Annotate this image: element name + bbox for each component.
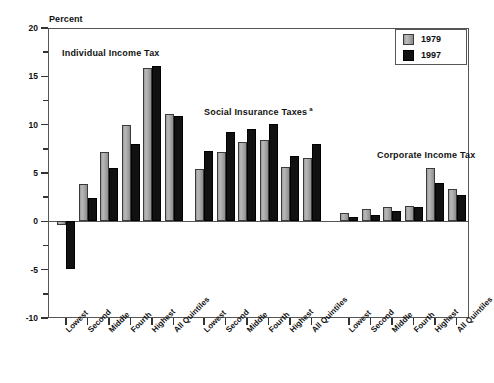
legend-item-1997: 1997 <box>403 50 441 61</box>
bar-1997-highest <box>435 183 444 222</box>
bar-1997-all-quintiles <box>457 195 466 221</box>
bar-1997-lowest <box>204 151 213 222</box>
bar-1979-middle <box>383 207 392 222</box>
bar-1979-all-quintiles <box>303 158 312 222</box>
y-axis-title: Percent <box>49 14 83 24</box>
x-tick <box>311 318 313 325</box>
y-tick-label: 20 <box>12 23 38 33</box>
bar-1997-fourth <box>131 144 140 221</box>
y-tick-label: -5 <box>12 265 38 275</box>
x-tick <box>268 318 270 325</box>
bar-1979-all-quintiles <box>448 189 457 221</box>
bar-1979-highest <box>281 167 290 221</box>
legend-label-1979: 1979 <box>421 35 441 44</box>
bar-1997-middle <box>392 211 401 222</box>
bar-1979-lowest <box>57 221 66 225</box>
y-tick-minor <box>43 148 48 150</box>
bar-1997-lowest <box>349 217 358 222</box>
bar-1979-second <box>217 152 226 222</box>
x-tick <box>87 318 89 325</box>
panel-title-footnote: a <box>307 106 312 112</box>
bar-1979-lowest <box>195 169 204 221</box>
legend-label-1997: 1997 <box>421 51 441 60</box>
x-tick <box>370 318 372 325</box>
legend-item-1979: 1979 <box>403 34 441 45</box>
bar-1997-middle <box>247 129 256 222</box>
bar-1979-fourth <box>122 125 131 222</box>
legend-swatch-1997 <box>403 50 414 61</box>
y-tick-minor <box>43 293 48 295</box>
bar-1997-middle <box>109 168 118 221</box>
y-tick-minor <box>43 51 48 53</box>
bar-1997-all-quintiles <box>174 116 183 221</box>
bar-1979-second <box>79 184 88 222</box>
x-tick <box>456 318 458 325</box>
legend: 1979 1997 <box>395 29 467 65</box>
bar-1979-middle <box>238 142 247 221</box>
x-tick <box>225 318 227 325</box>
y-tick-minor <box>43 196 48 198</box>
bar-1979-second <box>362 209 371 222</box>
x-tick <box>413 318 415 325</box>
y-tick-major <box>41 76 48 78</box>
y-tick-label: 5 <box>12 168 38 178</box>
y-tick-minor <box>43 245 48 247</box>
y-tick-major <box>41 269 48 271</box>
y-tick-label: 0 <box>12 216 38 226</box>
bar-1979-fourth <box>260 140 269 221</box>
bar-1997-all-quintiles <box>312 144 321 221</box>
y-tick-major <box>41 172 48 174</box>
y-tick-label: -10 <box>12 313 38 323</box>
bar-1979-all-quintiles <box>165 114 174 221</box>
bar-1997-fourth <box>269 124 278 222</box>
y-tick-major <box>41 27 48 29</box>
bar-1997-lowest <box>66 221 75 268</box>
y-tick-label: 10 <box>12 120 38 130</box>
panel-title: Social Insurance Taxes a <box>204 106 313 117</box>
y-tick-major <box>41 221 48 223</box>
bar-1979-highest <box>143 68 152 222</box>
y-tick-major <box>41 124 48 126</box>
y-tick-label: 15 <box>12 71 38 81</box>
panel-title: Corporate Income Tax <box>377 150 475 160</box>
x-tick <box>130 318 132 325</box>
bar-1979-lowest <box>340 213 349 222</box>
bar-1979-fourth <box>405 206 414 221</box>
bar-1997-highest <box>152 66 161 222</box>
y-tick-major <box>41 317 48 319</box>
bar-1997-second <box>371 215 380 222</box>
x-tick <box>173 318 175 325</box>
panel-title: Individual Income Tax <box>62 48 160 58</box>
legend-swatch-1979 <box>403 34 414 45</box>
bar-1997-fourth <box>414 207 423 222</box>
bar-1997-second <box>88 198 97 221</box>
y-tick-minor <box>43 100 48 102</box>
bar-1997-highest <box>290 156 299 222</box>
bar-1997-second <box>226 132 235 221</box>
bar-1979-highest <box>426 168 435 221</box>
bar-1979-middle <box>100 152 109 222</box>
